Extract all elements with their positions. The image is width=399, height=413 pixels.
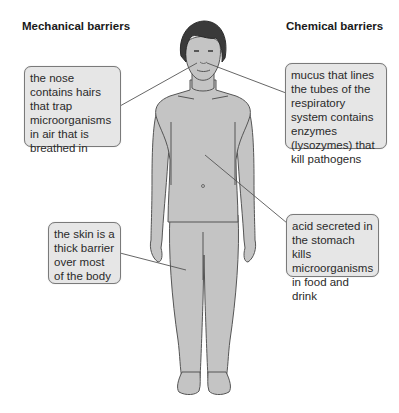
right-foot — [208, 372, 231, 395]
nose-label-box: the nose contains hairs that trap microo… — [24, 66, 121, 147]
mechanical-barriers-heading: Mechanical barriers — [22, 20, 130, 32]
face — [185, 37, 220, 81]
mucus-label-box: mucus that lines the tubes of the respir… — [285, 63, 387, 149]
pointer-mucus — [207, 63, 286, 93]
left-foot — [178, 372, 201, 395]
acid-label-box: acid secreted in the stomach kills micro… — [286, 214, 379, 277]
torso — [156, 80, 251, 222]
human-body-figure — [0, 0, 399, 413]
chemical-barriers-heading: Chemical barriers — [286, 20, 383, 32]
legs — [169, 215, 238, 378]
skin-label-box: the skin is a thick barrier over most of… — [48, 222, 121, 284]
